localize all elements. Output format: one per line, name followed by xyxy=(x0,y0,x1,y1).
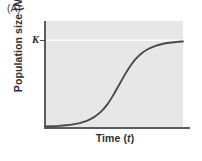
x-axis-title-suffix: ) xyxy=(131,132,135,144)
figure-panel-a: (A) Population size (N) K Time (t) xyxy=(0,0,202,161)
x-axis-title-prefix: Time ( xyxy=(96,132,127,144)
logistic-growth-curve xyxy=(46,41,184,126)
x-axis-title: Time (t) xyxy=(45,132,185,144)
